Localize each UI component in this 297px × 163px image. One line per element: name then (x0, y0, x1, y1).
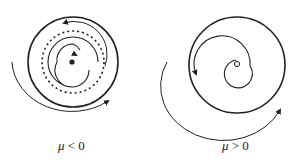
left-relation: < 0 (65, 138, 85, 153)
left-stable-focus (69, 59, 74, 64)
right-inner-spiral (194, 36, 252, 88)
left-outer-arrow (12, 62, 108, 111)
right-relation: > 0 (229, 138, 249, 153)
left-inner-arrow-spiral (72, 54, 76, 55)
left-phase-portrait (12, 17, 118, 111)
left-label: μ < 0 (58, 138, 85, 154)
right-unstable-focus (234, 61, 239, 66)
right-outer-arrow (161, 62, 280, 141)
right-label: μ > 0 (222, 138, 249, 154)
bifurcation-diagram (0, 0, 297, 163)
right-phase-portrait (161, 17, 285, 141)
